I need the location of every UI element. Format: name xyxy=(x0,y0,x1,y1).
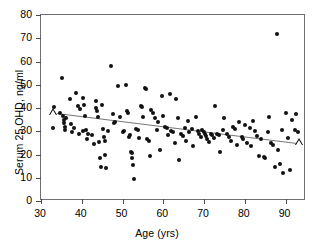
data-point xyxy=(221,128,225,132)
data-point xyxy=(271,143,275,147)
data-point xyxy=(128,133,132,137)
y-tick xyxy=(36,131,41,132)
data-point xyxy=(137,136,141,140)
data-point xyxy=(177,158,181,162)
data-point xyxy=(136,128,140,132)
data-point xyxy=(249,144,253,148)
data-point xyxy=(229,139,233,143)
y-tick xyxy=(36,178,41,179)
data-point xyxy=(191,144,195,148)
data-point xyxy=(183,126,187,130)
data-point xyxy=(161,114,165,118)
data-point xyxy=(160,94,164,98)
x-tick-label: 40 xyxy=(67,208,95,218)
data-point xyxy=(113,120,117,124)
data-point xyxy=(173,141,177,145)
data-point xyxy=(63,128,67,132)
data-point xyxy=(81,96,85,100)
data-point xyxy=(111,112,115,116)
y-tick-label: 10 xyxy=(6,172,32,182)
reference-triangle-marker xyxy=(295,138,303,145)
x-tick-label: 90 xyxy=(271,208,299,218)
data-point xyxy=(278,162,282,166)
x-tick xyxy=(245,199,246,204)
y-tick-label: 0 xyxy=(6,195,32,205)
data-point xyxy=(132,177,136,181)
x-tick-label: 70 xyxy=(189,208,217,218)
data-point xyxy=(109,64,113,68)
data-point xyxy=(253,129,257,133)
data-point xyxy=(284,111,288,115)
scatter-plot-figure: Serum 25 OHD, ng/ml Age (yrs) 0102030405… xyxy=(0,0,314,244)
data-point xyxy=(288,168,292,172)
data-point xyxy=(266,130,270,134)
data-point xyxy=(94,99,98,103)
data-point xyxy=(218,150,222,154)
data-point xyxy=(171,130,175,134)
data-point xyxy=(273,165,277,169)
data-point xyxy=(194,115,198,119)
data-point xyxy=(281,171,285,175)
data-point xyxy=(176,116,180,120)
data-point xyxy=(235,143,239,147)
data-point xyxy=(144,87,148,91)
x-tick xyxy=(41,199,42,204)
data-point xyxy=(70,130,74,134)
data-point xyxy=(184,139,188,143)
data-point xyxy=(116,84,120,88)
data-point xyxy=(259,137,263,141)
data-point xyxy=(276,148,280,152)
data-point xyxy=(187,130,191,134)
data-point xyxy=(131,163,135,167)
data-point xyxy=(92,142,96,146)
data-point xyxy=(106,129,110,133)
data-point xyxy=(151,111,155,115)
data-point xyxy=(186,119,190,123)
data-point xyxy=(275,32,279,36)
data-point xyxy=(104,166,108,170)
data-point xyxy=(286,136,290,140)
data-point xyxy=(168,92,172,96)
y-tick-label: 40 xyxy=(6,102,32,112)
data-point xyxy=(130,156,134,160)
data-point xyxy=(233,127,237,131)
data-point xyxy=(103,139,107,143)
x-tick xyxy=(123,199,124,204)
data-point xyxy=(130,151,134,155)
data-point xyxy=(248,126,252,130)
x-tick-label: 50 xyxy=(108,208,136,218)
x-axis-title: Age (yrs) xyxy=(0,227,314,239)
data-point xyxy=(99,165,103,169)
y-tick-label: 80 xyxy=(6,9,32,19)
data-point xyxy=(158,148,162,152)
data-point xyxy=(199,135,203,139)
data-point xyxy=(243,123,247,127)
data-point xyxy=(174,97,178,101)
data-point xyxy=(124,83,128,87)
data-point xyxy=(60,76,64,80)
data-point xyxy=(156,120,160,124)
data-point xyxy=(166,133,170,137)
data-point xyxy=(101,127,105,131)
data-point xyxy=(213,104,217,108)
y-tick-label: 30 xyxy=(6,125,32,135)
data-point xyxy=(190,127,194,131)
x-tick xyxy=(286,199,287,204)
data-point xyxy=(207,140,211,144)
data-point xyxy=(122,129,126,133)
data-point xyxy=(126,111,130,115)
y-tick xyxy=(36,15,41,16)
data-point xyxy=(141,115,145,119)
x-tick-label: 80 xyxy=(230,208,258,218)
data-point xyxy=(98,156,102,160)
x-tick-label: 30 xyxy=(26,208,54,218)
data-point xyxy=(78,107,82,111)
data-point xyxy=(118,115,122,119)
x-tick-label: 60 xyxy=(148,208,176,218)
data-point xyxy=(68,97,72,101)
data-point xyxy=(267,115,271,119)
data-point xyxy=(280,128,284,132)
x-tick xyxy=(82,199,83,204)
y-tick-label: 20 xyxy=(6,149,32,159)
data-point xyxy=(294,112,298,116)
